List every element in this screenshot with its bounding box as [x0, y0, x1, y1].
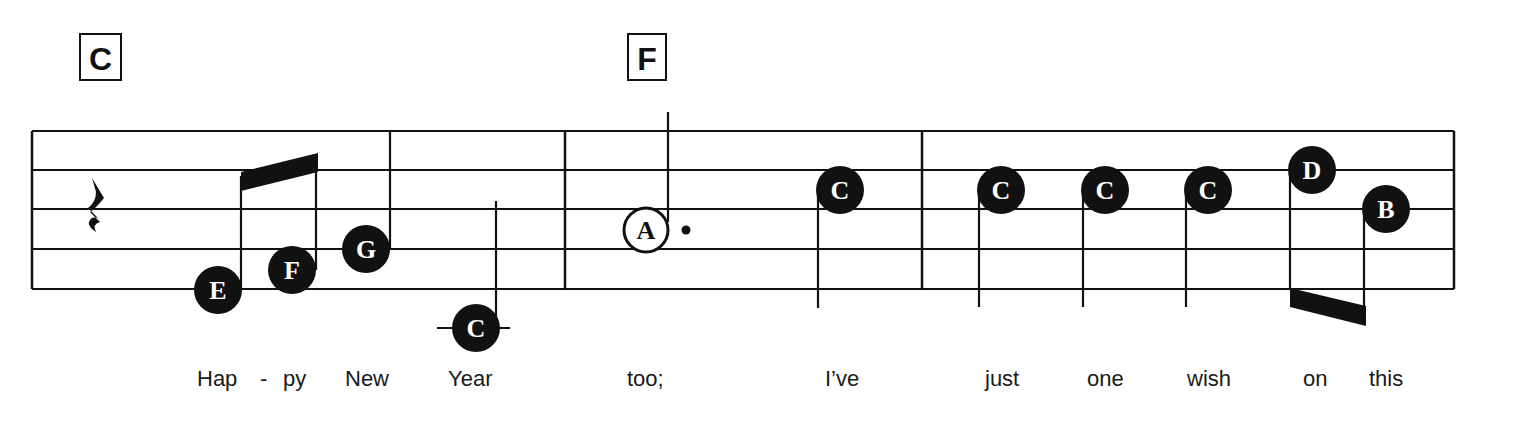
- staff: [32, 131, 1454, 289]
- note-e: E: [194, 266, 242, 314]
- lyric-syllable: Hap: [197, 366, 237, 391]
- note-letter: F: [284, 256, 300, 285]
- note-f: F: [268, 246, 316, 294]
- note-b: B: [1362, 185, 1410, 233]
- chord-label: F: [637, 41, 657, 77]
- sheet-music-staff: CF EFGCACCCCDB Hap-pyNewYeartoo;I’vejust…: [0, 0, 1540, 422]
- lyric-syllable: I’ve: [825, 366, 859, 391]
- lyric-syllable: on: [1303, 366, 1327, 391]
- note-letter: D: [1303, 156, 1322, 185]
- eighth-note-beam: [241, 153, 318, 191]
- note-letter: G: [356, 235, 376, 264]
- note-letter: C: [1199, 176, 1218, 205]
- lyric-syllable: too;: [627, 366, 664, 391]
- note-letter: C: [992, 176, 1011, 205]
- chord-box-c: C: [80, 34, 121, 80]
- lyric-syllable: py: [283, 366, 306, 391]
- note-letter: A: [637, 216, 656, 245]
- note-c: C: [1081, 166, 1129, 214]
- lyric-syllable: -: [260, 366, 267, 391]
- lyrics: Hap-pyNewYeartoo;I’vejustonewishonthis: [197, 366, 1403, 391]
- note-d: D: [1288, 146, 1336, 194]
- lyric-syllable: one: [1087, 366, 1124, 391]
- note-letter: C: [831, 176, 850, 205]
- note-c: C: [1184, 166, 1232, 214]
- note-letter: C: [1096, 176, 1115, 205]
- note-letter: B: [1377, 195, 1394, 224]
- chord-label: C: [89, 41, 112, 77]
- note-g: G: [342, 225, 390, 273]
- augmentation-dot: [682, 226, 691, 235]
- chord-symbols: CF: [80, 34, 666, 80]
- lyric-syllable: this: [1369, 366, 1403, 391]
- chord-box-f: F: [628, 34, 666, 80]
- note-letter: C: [467, 314, 486, 343]
- note-c: C: [437, 304, 510, 352]
- note-a: A: [624, 208, 691, 252]
- note-stems: [241, 112, 1364, 328]
- lyric-syllable: just: [984, 366, 1019, 391]
- note-c: C: [816, 166, 864, 214]
- eighth-note-beam: [1290, 288, 1366, 326]
- quarter-rest-icon: [88, 178, 104, 232]
- lyric-syllable: wish: [1186, 366, 1231, 391]
- lyric-syllable: New: [345, 366, 389, 391]
- note-c: C: [977, 166, 1025, 214]
- note-letter: E: [209, 276, 226, 305]
- lyric-syllable: Year: [448, 366, 492, 391]
